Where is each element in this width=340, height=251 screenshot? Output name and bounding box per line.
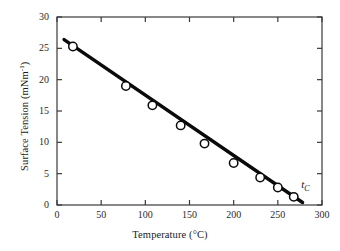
data-point <box>229 159 237 167</box>
data-point <box>176 121 184 129</box>
x-axis-tick-label: 100 <box>130 210 160 220</box>
x-axis-title: Temperature (°C) <box>0 229 340 240</box>
data-point-marker <box>274 183 282 191</box>
y-axis-tick-label: 30 <box>23 12 49 22</box>
data-trend-line <box>64 40 303 203</box>
x-axis-tick-label: 250 <box>263 210 293 220</box>
y-axis-tick-label: 25 <box>23 43 49 53</box>
data-point <box>148 101 156 109</box>
data-point <box>69 42 77 50</box>
data-point-marker <box>69 42 77 50</box>
data-point-marker <box>122 82 130 90</box>
critical-temperature-subscript: C <box>304 184 309 193</box>
data-point <box>290 193 298 201</box>
y-axis-tick-label: 10 <box>23 137 49 147</box>
y-axis-tick-label: 20 <box>23 75 49 85</box>
data-point <box>256 173 264 181</box>
data-point <box>274 183 282 191</box>
chart-figure: Surface Tension (mNm-1) Temperature (°C)… <box>0 0 340 251</box>
y-axis-tick-label: 5 <box>23 169 49 179</box>
x-axis-tick-label: 300 <box>307 210 337 220</box>
y-axis-title-superscript: -1 <box>18 65 26 71</box>
data-point <box>122 82 130 90</box>
data-point <box>200 139 208 147</box>
data-point-marker <box>176 121 184 129</box>
y-axis-title-tail: ) <box>19 62 30 66</box>
data-point-marker <box>290 193 298 201</box>
data-point-marker <box>200 139 208 147</box>
data-point-marker <box>256 173 264 181</box>
y-axis-title-base: Surface Tension (mNm <box>19 71 30 171</box>
data-point-marker <box>148 101 156 109</box>
y-axis-tick-label: 0 <box>23 200 49 210</box>
x-axis-tick-label: 50 <box>86 210 116 220</box>
plot-frame <box>57 17 322 205</box>
critical-temperature-label: tC <box>301 178 309 193</box>
x-axis-tick-label: 150 <box>175 210 205 220</box>
data-point-marker <box>229 159 237 167</box>
x-axis-tick-label: 0 <box>42 210 72 220</box>
x-axis-tick-label: 200 <box>219 210 249 220</box>
y-axis-tick-label: 15 <box>23 106 49 116</box>
